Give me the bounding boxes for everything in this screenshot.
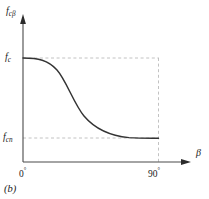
figure-caption: (b) [4, 184, 16, 195]
x-tick-90deg-value: 90 [148, 169, 158, 179]
x-tick-label-90deg: 90° [148, 168, 160, 180]
degree-icon: ° [158, 166, 161, 173]
y-axis-label-subscript: cβ [9, 10, 16, 18]
curve-fcbeta [23, 58, 159, 138]
y-tick-fcn-subscript: cn [6, 136, 13, 144]
degree-icon: ° [24, 166, 27, 173]
x-axis-arrowhead [181, 159, 191, 165]
y-tick-label-fc: fc [5, 52, 11, 62]
chart-canvas [0, 0, 209, 199]
x-tick-label-0deg: 0° [19, 168, 26, 180]
y-tick-label-fcn: fcn [3, 132, 13, 142]
y-axis-arrowhead [20, 14, 26, 24]
y-axis-label: fcβ [6, 6, 16, 16]
figure-panel: fcβ fc fcn 0° 90° β (b) [0, 0, 209, 199]
y-tick-fc-subscript: c [8, 56, 11, 64]
x-axis-label: β [196, 148, 201, 158]
